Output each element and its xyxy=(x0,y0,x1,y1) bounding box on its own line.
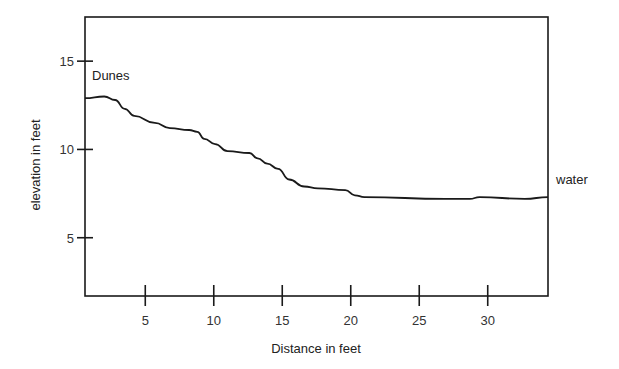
y-tick-label: 10 xyxy=(60,142,74,157)
x-axis-title: Distance in feet xyxy=(271,341,361,356)
y-axis-title: elevation in feet xyxy=(28,119,43,210)
water-annotation: water xyxy=(555,172,588,187)
plot-frame xyxy=(85,17,548,296)
elevation-line xyxy=(85,97,548,199)
plot-border xyxy=(85,17,548,296)
x-tick-label: 20 xyxy=(344,313,358,328)
x-tick-label: 15 xyxy=(275,313,289,328)
x-tick-label: 5 xyxy=(142,313,149,328)
dunes-annotation: Dunes xyxy=(92,68,130,83)
y-tick-label: 5 xyxy=(67,231,74,246)
x-tick-label: 25 xyxy=(412,313,426,328)
x-tick-label: 10 xyxy=(207,313,221,328)
x-axis: 51015202530 xyxy=(142,285,495,328)
chart: 51015 51015202530 Dunes water Distance i… xyxy=(0,0,619,369)
y-axis: 51015 xyxy=(60,54,93,246)
x-tick-label: 30 xyxy=(480,313,494,328)
y-tick-label: 15 xyxy=(60,54,74,69)
